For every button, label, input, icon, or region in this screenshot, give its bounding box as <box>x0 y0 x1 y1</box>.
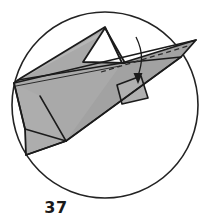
figure-number-caption: 37 <box>0 198 112 218</box>
figure-page: 37 <box>0 0 211 224</box>
figure-illustration <box>0 0 211 224</box>
